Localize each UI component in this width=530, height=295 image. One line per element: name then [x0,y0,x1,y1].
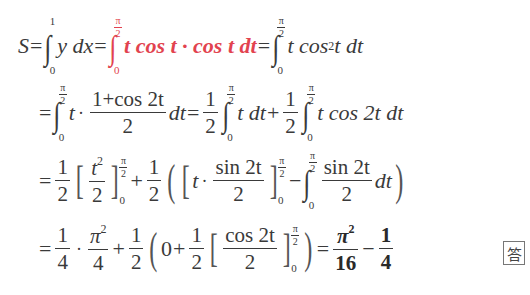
fraction-bar [129,248,144,249]
lower-limit: 0 [309,200,317,211]
numerator: 1 [189,224,204,246]
numerator: sin 2t [322,156,372,178]
denominator: 16 [333,252,358,274]
pi: π [116,16,121,26]
left-bracket-icon: [ [210,229,218,269]
lower-limit: 0 [114,65,122,76]
equation-line-2: = ∫ π 2 0 t · 1+cos 2t 2 dt = 1 2 ∫ π 2 [38,88,403,137]
fraction-half: 1 2 [147,156,162,205]
lower-limit: 0 [227,132,235,143]
equals-sign: = [30,35,42,57]
denominator: 2 [243,251,258,273]
equals-sign: = [39,170,51,192]
numerator: 1 [55,224,70,246]
two: 2 [116,29,121,39]
fraction-bar [89,181,105,182]
left-paren-icon: ( [150,227,158,271]
pi: π [310,151,315,161]
plus-sign: + [112,238,124,260]
fraction-bar [213,180,263,181]
plus-sign: + [267,102,279,124]
integral-sign-icon: ∫ [54,98,61,132]
lower-limit: 0 [307,132,315,143]
lower-limit: 0 [278,195,286,206]
fraction-bar [203,112,218,113]
numerator: 1 [203,88,218,110]
integral-sign-icon: ∫ [272,31,279,65]
integrand-t-dt: t dt [237,102,266,124]
exponent: 2 [100,222,106,236]
numerator: sin 2t [213,156,263,178]
pi: π [293,224,298,234]
upper-limit-pi-over-2: π 2 [291,224,299,247]
right-paren-icon: ) [304,227,312,271]
integrand-t-cos: t cos [287,35,328,57]
numerator: 1 [147,156,162,178]
pi: π [121,156,126,166]
fraction-bar [55,248,70,249]
denominator: 4 [55,251,70,273]
fraction-sin2t-over-2: sin 2t 2 [213,156,263,205]
upper-limit-pi-over-2: π 2 [278,156,286,179]
integral-sign-icon: ∫ [222,98,229,132]
integral-sign-icon: ∫ [303,166,310,200]
fraction-half: 1 2 [129,224,144,273]
numerator: π2 [88,223,109,247]
denominator: 2 [189,251,204,273]
denominator: 2 [147,183,162,205]
left-paren-icon: ( [168,159,176,203]
evaluation-limits: π 2 0 [119,156,127,206]
numerator: t2 [89,155,105,179]
pi: π [229,83,234,93]
denominator: 2 [203,115,218,137]
fraction-half: 1 2 [203,88,218,137]
differential-dt: dt [169,102,186,124]
denominator: 4 [379,251,394,273]
multiply-dot: · [201,172,207,190]
upper-limit-pi-over-2: π 2 [119,156,127,179]
numerator: cos 2t [223,224,277,246]
fraction-bar [55,180,70,181]
highlighted-integrand: t cos t · cos t dt [124,35,257,57]
fraction-bar [322,180,372,181]
equals-sign: = [187,102,199,124]
left-bracket-icon: [ [76,161,84,201]
denominator: 4 [91,252,106,274]
denominator: 2 [339,183,354,205]
pi: π [90,224,101,248]
variable-t: t [192,170,198,192]
evaluation-limits: π 2 0 [291,224,299,274]
minus-sign: − [362,238,374,260]
integral-0-to-pi-over-2: ∫ π 2 0 [302,157,316,205]
integrand-t-dt: t dt [334,35,363,57]
equals-sign: = [39,238,51,260]
integrand-y-dx: y dx [57,35,93,57]
plus-sign: + [130,170,142,192]
answer-fraction-quarter: 1 4 [379,224,394,273]
integral-sign-icon: ∫ [109,31,116,65]
denominator: 2 [55,183,70,205]
answer-fraction-pi-squared-over-16: π2 16 [333,223,358,274]
lower-limit: 0 [59,132,67,143]
numerator: π2 [335,223,356,247]
two: 2 [121,169,126,179]
equals-sign: = [39,102,51,124]
lower-limit: 0 [291,263,299,274]
upper-limit: 1 [50,16,56,27]
denominator: 2 [283,115,298,137]
lower-limit: 0 [277,65,285,76]
numerator: 1 [55,156,70,178]
equals-sign: = [317,238,329,260]
integral-0-to-pi-over-2: ∫ π 2 0 [52,89,66,137]
two: 2 [279,169,284,179]
pi: π [279,156,284,166]
equation-line-1: S = ∫ 1 0 y dx = ∫ π 2 0 t cos t · cos t… [18,22,363,70]
multiply-dot: · [78,104,84,122]
multiply-dot: · [76,240,82,258]
integral-sign-icon: ∫ [45,31,52,65]
differential-dt: dt [375,170,392,192]
fraction-half: 1 2 [55,156,70,205]
two: 2 [293,237,298,247]
integral-0-to-pi-over-2: ∫ π 2 0 [301,89,315,137]
numerator: 1 [379,224,394,246]
